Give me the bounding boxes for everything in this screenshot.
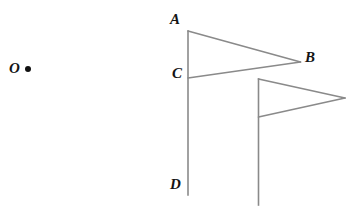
- label-c: C: [172, 66, 182, 81]
- label-d: D: [170, 177, 181, 192]
- label-a: A: [170, 12, 180, 27]
- segment-ab: [188, 31, 301, 62]
- label-b: B: [305, 50, 315, 65]
- label-o: O: [9, 61, 20, 76]
- diagram-canvas: O A B C D: [0, 0, 348, 220]
- segment-bc: [188, 62, 301, 78]
- second-flag-bottom-edge: [259, 98, 346, 117]
- second-flag-top-edge: [259, 79, 346, 98]
